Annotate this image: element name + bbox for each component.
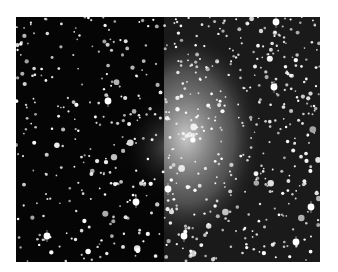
astronomy-photo: [16, 17, 320, 262]
star-field: [16, 17, 320, 262]
